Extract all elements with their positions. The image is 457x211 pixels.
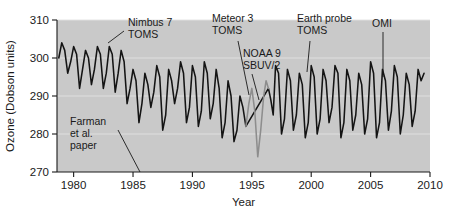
- y-tick-label-270: 270: [30, 166, 49, 178]
- chart-canvas: 2702802903003101980198519901995200020052…: [0, 0, 457, 211]
- annotation-label-farman-et-al-paper: paper: [70, 139, 97, 151]
- annotation-label-earth-probe-toms: TOMS: [297, 24, 327, 36]
- ozone-trend-chart-figure: 2702802903003101980198519901995200020052…: [0, 0, 457, 211]
- y-tick-label-280: 280: [30, 128, 49, 140]
- x-tick-label-2000: 2000: [298, 179, 324, 191]
- annotation-label-farman-et-al-paper: Farman: [70, 115, 106, 127]
- x-tick-label-1980: 1980: [61, 179, 87, 191]
- x-tick-label-1990: 1990: [180, 179, 206, 191]
- y-tick-label-310: 310: [30, 14, 49, 26]
- x-tick-label-2005: 2005: [358, 179, 384, 191]
- y-tick-label-290: 290: [30, 90, 49, 102]
- annotation-label-earth-probe-toms: Earth probe: [297, 12, 352, 24]
- annotation-label-nimbus7-toms: TOMS: [128, 28, 158, 40]
- annotation-label-farman-et-al-paper: et al.: [70, 127, 93, 139]
- x-axis-title: Year: [232, 196, 255, 208]
- y-axis-title: Ozone (Dobson units): [4, 40, 16, 152]
- annotation-label-nimbus7-toms: Nimbus 7: [128, 16, 173, 28]
- annotation-label-meteor3-toms: TOMS: [212, 24, 242, 36]
- annotation-label-meteor3-toms: Meteor 3: [212, 12, 254, 24]
- annotation-label-noaa9-sbuv2: NOAA 9: [243, 47, 281, 59]
- y-tick-label-300: 300: [30, 52, 49, 64]
- x-tick-label-1995: 1995: [239, 179, 265, 191]
- annotation-label-omi: OMI: [372, 17, 392, 29]
- x-tick-label-1985: 1985: [120, 179, 146, 191]
- annotation-label-noaa9-sbuv2: SBUV/2: [243, 59, 281, 71]
- x-tick-label-2010: 2010: [417, 179, 443, 191]
